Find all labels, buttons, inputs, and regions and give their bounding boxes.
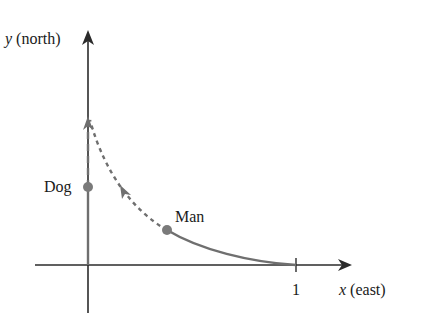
y-axis-label: y (north) bbox=[3, 30, 61, 48]
x-tick-label: 1 bbox=[292, 281, 300, 298]
man-path-solid bbox=[167, 230, 296, 265]
man-dot bbox=[162, 225, 172, 235]
pursuit-diagram: y (north) x (east) 1 Dog Man bbox=[0, 0, 422, 332]
man-path-dashed bbox=[90, 120, 167, 230]
dog-dot bbox=[83, 182, 93, 192]
dog-label: Dog bbox=[44, 178, 72, 196]
man-label: Man bbox=[175, 208, 204, 225]
x-axis-label: x (east) bbox=[338, 281, 386, 299]
